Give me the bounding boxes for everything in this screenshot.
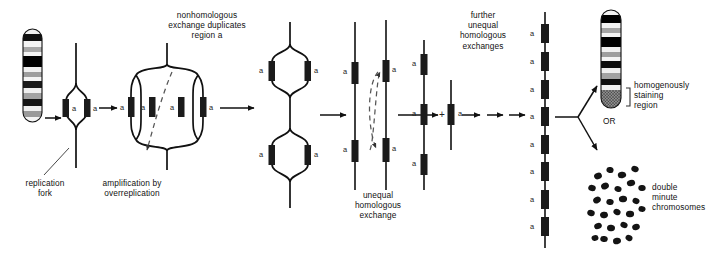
plus-sign: + [439,110,445,120]
a-marker: a [458,110,462,117]
hsr-bracket [626,88,630,106]
a-marker: a [530,196,534,203]
a-marker: a [412,110,416,117]
a-marker: a [530,30,534,37]
region-a-band [149,97,156,117]
a-marker: a [141,104,145,111]
a-marker: a [392,66,396,73]
a-marker: a [530,113,534,120]
a-marker: a [530,86,534,93]
hsr-chromosome [601,10,621,108]
a-marker: a [170,104,174,111]
label-replication-fork: replicationfork [10,178,80,198]
a-marker: a [412,60,416,67]
a-marker: a [259,151,263,158]
region-a-band [383,138,390,162]
region-a-band [178,97,185,117]
label-nonhomologous-exchange: nonhomologousexchange duplicatesregion a [150,10,264,41]
replication-fork-leader [44,148,69,175]
crossover-dashed-arrow-down [370,72,379,148]
a-marker: a [314,67,318,74]
region-a-band [63,99,70,117]
label-hsr: homogenouslystainingregion [634,80,704,111]
a-marker: a [209,104,213,111]
amplified-array-chromosome [541,12,549,248]
unequal-exchange-pair [355,20,386,190]
crossover-dashed-arrow-up [370,72,380,150]
a-marker: a [120,104,124,111]
a-marker: a [343,146,347,153]
metaphase-chromosome [23,29,42,122]
a-marker: a [343,68,347,75]
a-marker: a [530,141,534,148]
a-marker: a [412,160,416,167]
branch-arrows [555,86,597,150]
region-a-band [352,62,359,84]
region-a-band [269,145,276,165]
a-marker: a [93,105,97,112]
label-unequal-exchange: unequalhomologousexchange [338,190,418,221]
a-marker: a [259,67,263,74]
label-or: OR [603,116,615,126]
three-copy-chromosome [421,40,428,190]
a-marker: a [530,223,534,230]
label-amplification: amplification byoverreplication [78,178,186,198]
region-a-band [269,61,276,81]
replication-bubble-1 [66,43,87,168]
region-a-band [352,140,359,162]
region-a-band [305,61,312,81]
region-a-band [84,99,91,117]
a-marker: a [392,145,396,152]
a-marker: a [314,151,318,158]
a-marker: a [530,58,534,65]
a-marker: a [530,168,534,175]
label-further-exchanges: furtherunequalhomologousexchanges [442,10,524,51]
a-marker: a [72,105,76,112]
label-double-minutes: doubleminutechromosomes [652,182,706,213]
region-a-band [128,97,135,117]
single-copy-chromosome [448,80,455,150]
double-minute-cluster [586,165,646,245]
region-a-band [305,145,312,165]
region-a-band [200,97,207,117]
region-a-band [383,60,390,82]
double-bubble-structure [272,22,308,208]
